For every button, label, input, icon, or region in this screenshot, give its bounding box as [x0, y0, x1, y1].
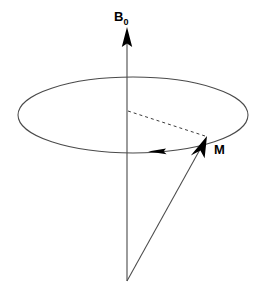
b0-label: B0 — [114, 10, 128, 27]
b0-label-subscript: 0 — [123, 17, 128, 27]
b0-label-symbol: B — [114, 9, 123, 24]
m-label: M — [214, 143, 225, 156]
magnetization-vector-line — [127, 144, 203, 281]
dashed-radius-line — [128, 111, 205, 136]
precession-diagram: B0 M — [0, 0, 263, 296]
